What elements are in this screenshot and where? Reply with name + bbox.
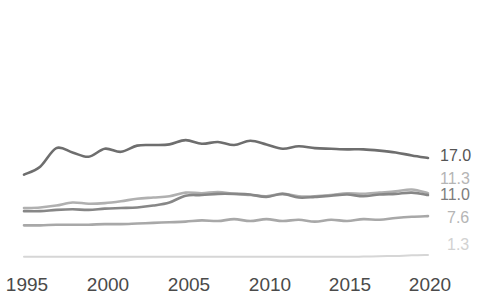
x-axis-tick-2000: 2000 xyxy=(87,274,129,296)
end-label-series-1: 17.0 xyxy=(440,147,471,165)
line-chart: 1995 2000 2005 2010 2015 2020 17.0 11.3 … xyxy=(0,0,485,308)
x-axis-tick-2005: 2005 xyxy=(168,274,210,296)
x-axis-tick-2010: 2010 xyxy=(249,274,291,296)
series-path-group xyxy=(24,140,428,257)
end-label-series-5: 1.3 xyxy=(447,236,469,254)
chart-plot-area xyxy=(0,0,485,308)
series-line-1 xyxy=(24,140,428,175)
series-line-5 xyxy=(24,255,428,257)
x-axis-tick-2015: 2015 xyxy=(329,274,371,296)
end-label-series-3: 11.0 xyxy=(440,186,470,204)
end-label-series-4: 7.6 xyxy=(447,209,469,227)
x-axis-tick-2020: 2020 xyxy=(409,274,451,296)
series-line-3 xyxy=(24,193,428,212)
x-axis-tick-1995: 1995 xyxy=(6,274,48,296)
series-line-2 xyxy=(24,189,428,208)
series-line-4 xyxy=(24,216,428,225)
